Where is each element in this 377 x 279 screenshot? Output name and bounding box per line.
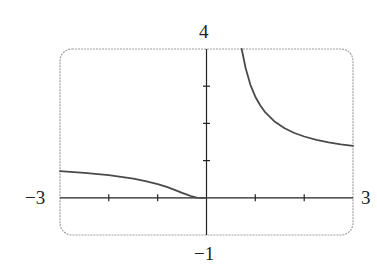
curve-left-branch — [60, 171, 207, 198]
x-max-label: 3 — [361, 188, 371, 207]
function-plot — [0, 0, 377, 279]
curve-right-branch — [242, 49, 353, 146]
y-min-label: −1 — [194, 244, 214, 263]
y-max-label: 4 — [199, 22, 209, 41]
x-min-label: −3 — [25, 188, 45, 207]
